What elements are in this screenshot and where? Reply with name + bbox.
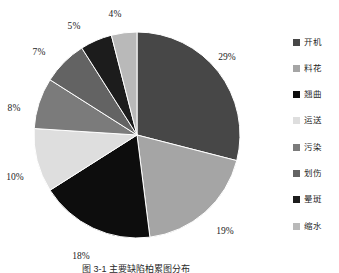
- legend-item-label: 运送: [304, 116, 322, 125]
- pie-plot-area: 29%19%18%10%8%7%5%4%: [0, 0, 272, 258]
- legend-item[interactable]: 缩水: [293, 222, 339, 230]
- pie-slice-group: [34, 32, 240, 238]
- legend-item-label: 缩水: [304, 222, 322, 231]
- legend-item[interactable]: 晕斑: [293, 196, 339, 204]
- legend-item-label: 污染: [304, 143, 322, 152]
- legend-item[interactable]: 料花: [293, 64, 339, 72]
- pie-slice-percent-label: 7%: [33, 47, 46, 57]
- legend-color-swatch: [293, 91, 300, 98]
- legend-item[interactable]: 运送: [293, 117, 339, 125]
- legend-color-swatch: [293, 117, 300, 124]
- pie-slice-percent-label: 10%: [6, 172, 24, 182]
- legend-item-label: 划伤: [304, 169, 322, 178]
- legend-color-swatch: [293, 65, 300, 72]
- legend-item-label: 开机: [304, 38, 322, 47]
- pie-slice-percent-label: 18%: [72, 251, 90, 261]
- pie-slice-percent-label: 5%: [68, 21, 81, 31]
- legend-item-label: 翘曲: [304, 90, 322, 99]
- legend-item[interactable]: 翘曲: [293, 91, 339, 99]
- legend-item-label: 晕斑: [304, 195, 322, 204]
- pie-slice-percent-label: 19%: [216, 226, 234, 236]
- legend-color-swatch: [293, 223, 300, 230]
- legend-color-swatch: [293, 39, 300, 46]
- pie-slice-percent-label: 29%: [218, 52, 236, 62]
- legend-item[interactable]: 划伤: [293, 169, 339, 177]
- legend-color-swatch: [293, 170, 300, 177]
- legend-item[interactable]: 污染: [293, 143, 339, 151]
- legend-color-swatch: [293, 144, 300, 151]
- pie-slice-percent-label: 8%: [8, 103, 21, 113]
- chart-legend: 开机料花翘曲运送污染划伤晕斑缩水: [293, 38, 339, 248]
- pie-svg: [0, 0, 272, 258]
- figure-caption: 图 3-1 主要缺陷柏累图分布: [0, 262, 272, 273]
- legend-color-swatch: [293, 196, 300, 203]
- legend-item[interactable]: 开机: [293, 38, 339, 46]
- pie-slice-percent-label: 4%: [109, 9, 122, 19]
- legend-item-label: 料花: [304, 64, 322, 73]
- pie-chart-figure: 29%19%18%10%8%7%5%4% 开机料花翘曲运送污染划伤晕斑缩水 图 …: [0, 0, 339, 273]
